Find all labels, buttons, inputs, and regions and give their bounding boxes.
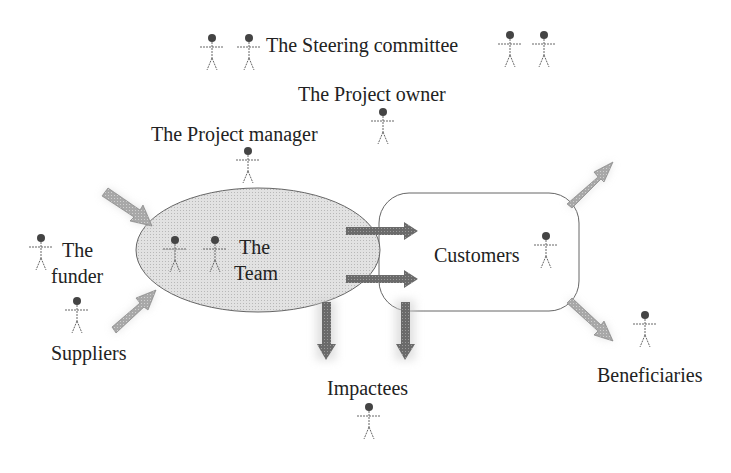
arrow-funder-in — [102, 188, 152, 226]
label-team-line2: Team — [234, 262, 279, 284]
label-project-manager: The Project manager — [151, 123, 318, 146]
label-funder-line1: The — [62, 239, 93, 261]
person-icon-supplier — [65, 297, 89, 333]
stakeholder-diagram: The Steering committee The Project owner… — [0, 0, 731, 473]
label-steering-committee: The Steering committee — [266, 34, 458, 57]
label-beneficiaries: Beneficiaries — [597, 364, 703, 386]
person-icon-manager — [236, 147, 260, 183]
label-funder-line2: funder — [51, 265, 104, 287]
label-impactees: Impactees — [327, 377, 408, 400]
arrow-customers-out-down — [567, 298, 613, 341]
arrow-customers-to-impactees — [395, 300, 415, 360]
person-icon-impactee — [357, 403, 381, 439]
label-project-owner: The Project owner — [298, 83, 446, 106]
person-icon-steering-4 — [532, 31, 556, 67]
arrow-customers-out-up — [567, 162, 613, 208]
person-icon-beneficiary — [633, 311, 657, 347]
person-icon-funder — [29, 234, 53, 270]
person-icon-owner — [371, 108, 395, 144]
arrow-team-to-impactees — [316, 300, 336, 360]
label-team-line1: The — [239, 236, 270, 258]
label-suppliers: Suppliers — [51, 342, 127, 365]
person-icon-steering-1 — [200, 34, 224, 70]
person-icon-steering-2 — [237, 34, 261, 70]
arrow-suppliers-in — [112, 290, 156, 333]
label-customers: Customers — [434, 244, 520, 266]
person-icon-steering-3 — [498, 31, 522, 67]
